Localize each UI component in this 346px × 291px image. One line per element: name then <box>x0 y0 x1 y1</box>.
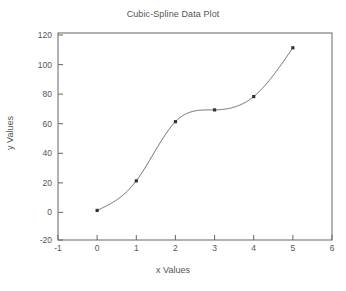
plot-frame <box>58 33 332 240</box>
x-tick-label: 3 <box>200 243 230 253</box>
y-tick-label: 120 <box>22 30 52 40</box>
data-point-marker <box>96 209 99 212</box>
y-tick-label: 40 <box>22 148 52 158</box>
data-point-marker <box>135 179 138 182</box>
x-tick-label: -1 <box>43 243 73 253</box>
y-tick-label: 100 <box>22 60 52 70</box>
y-tick-label: 20 <box>22 178 52 188</box>
y-tick-label: 0 <box>22 207 52 217</box>
y-tick-label: 60 <box>22 119 52 129</box>
x-tick-label: 0 <box>82 243 112 253</box>
data-point-marker <box>252 95 255 98</box>
data-point-marker <box>174 120 177 123</box>
chart-figure: Cubic-Spline Data Plot 120 <box>0 0 346 291</box>
y-tick-label: 80 <box>22 89 52 99</box>
x-tick-label: 5 <box>278 243 308 253</box>
x-tick-label: 4 <box>239 243 269 253</box>
x-tick-label: 1 <box>121 243 151 253</box>
data-point-marker <box>291 46 294 49</box>
data-point-marker <box>213 108 216 111</box>
x-tick-label: 2 <box>160 243 190 253</box>
y-axis-label: y Values <box>5 101 15 165</box>
x-axis-label: x Values <box>0 265 346 275</box>
x-tick-label: 6 <box>317 243 346 253</box>
